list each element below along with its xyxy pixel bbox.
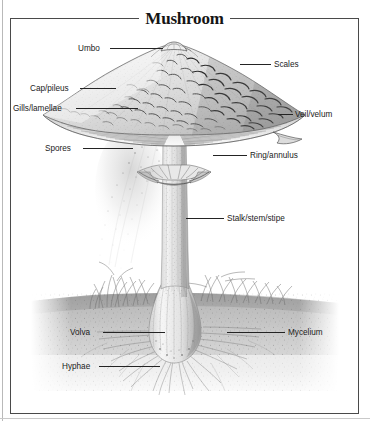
leader-line-spores (83, 148, 133, 149)
label-cap-pileus: Cap/pileus (30, 84, 69, 93)
label-umbo: Umbo (78, 44, 100, 53)
leader-line-cap-pileus (80, 88, 116, 89)
label-callouts: Umbo Scales Cap/pileus Gills/lamellae Ve… (0, 0, 370, 421)
leader-line-umbo (110, 48, 163, 49)
mushroom-diagram-figure: Mushroom Umbo Scales Cap/pileus Gills/la… (0, 0, 370, 421)
leader-line-gills-lamellae (76, 108, 138, 109)
label-volva: Volva (70, 328, 90, 337)
label-stalk-stem-stipe: Stalk/stem/stipe (227, 214, 285, 223)
leader-line-volva (103, 332, 165, 333)
leader-line-stalk-stem-stipe (186, 218, 224, 219)
leader-line-hyphae (99, 366, 160, 367)
label-gills-lamellae: Gills/lamellae (13, 104, 62, 113)
label-mycelium: Mycelium (288, 328, 323, 337)
leader-line-veil-velum (278, 114, 293, 115)
leader-line-mycelium (227, 332, 285, 333)
label-spores: Spores (45, 144, 71, 153)
label-scales: Scales (274, 60, 299, 69)
leader-line-scales (240, 64, 271, 65)
label-veil-velum: Veil/velum (295, 110, 332, 119)
label-ring-annulus: Ring/annulus (250, 151, 298, 160)
leader-line-ring-annulus (213, 155, 247, 156)
label-hyphae: Hyphae (62, 362, 90, 371)
